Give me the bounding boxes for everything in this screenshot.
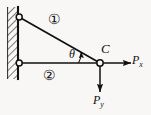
member-one-label: ① (48, 13, 61, 27)
pin-joint-top (16, 14, 22, 20)
member-two-label: ② (43, 69, 56, 83)
angle-theta-label: θ (69, 48, 75, 60)
pin-joint-c (97, 60, 103, 66)
force-px-label: Px (132, 54, 143, 69)
statics-diagram-figure: C θ Px Py ① ② (0, 0, 151, 115)
force-py-label: Py (93, 94, 104, 109)
force-px-subscript: x (139, 60, 143, 69)
angle-arc (79, 52, 82, 63)
pin-joint-bottom (16, 60, 22, 66)
diagram-canvas (0, 0, 151, 115)
force-py-subscript: y (100, 100, 104, 109)
joint-c-label: C (101, 42, 110, 55)
